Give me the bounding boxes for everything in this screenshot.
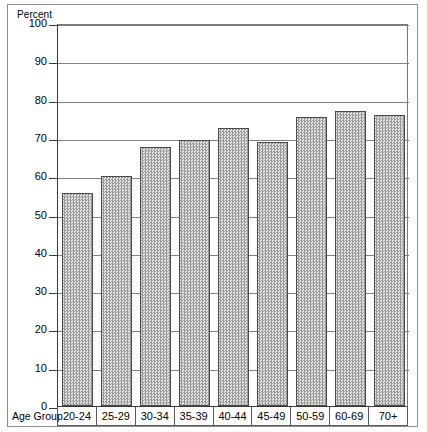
y-axis-tick-label: 60 xyxy=(13,171,47,182)
bar xyxy=(140,147,171,406)
bar-chart-figure: Percent 1009080706050403020100 20-2425-2… xyxy=(0,0,427,432)
y-axis-tick xyxy=(49,331,58,332)
plot-area xyxy=(57,24,408,407)
x-axis-category-label: 25-29 xyxy=(97,407,136,425)
gridline xyxy=(58,63,409,64)
bar xyxy=(62,193,93,406)
y-axis-tick xyxy=(49,140,58,141)
bar xyxy=(179,140,210,406)
x-axis-category-label: 20-24 xyxy=(58,407,97,425)
bar xyxy=(296,117,327,406)
y-axis-tick-label: 50 xyxy=(13,210,47,221)
bar xyxy=(218,128,249,406)
x-axis-category-label: 45-49 xyxy=(252,407,291,425)
bar xyxy=(335,111,366,406)
y-axis-tick-label: 20 xyxy=(13,324,47,335)
x-axis-category-label: 50-59 xyxy=(291,407,330,425)
x-axis-category-label: 70+ xyxy=(369,407,407,425)
x-axis-category-row: 20-2425-2930-3435-3940-4445-4950-5960-69… xyxy=(57,407,408,426)
y-axis-tick-label: 40 xyxy=(13,248,47,259)
y-axis-tick-label: 10 xyxy=(13,363,47,374)
y-axis-tick xyxy=(49,255,58,256)
y-axis-tick xyxy=(49,370,58,371)
y-axis-tick xyxy=(49,178,58,179)
x-axis-category-label: 40-44 xyxy=(214,407,253,425)
x-axis-category-label: 35-39 xyxy=(175,407,214,425)
y-axis-tick-label: 30 xyxy=(13,286,47,297)
y-axis-tick xyxy=(49,293,58,294)
y-axis-tick xyxy=(49,25,58,26)
x-axis-category-label: 60-69 xyxy=(330,407,369,425)
bar xyxy=(374,115,405,406)
y-axis-tick xyxy=(49,217,58,218)
y-axis-tick xyxy=(49,63,58,64)
bar xyxy=(257,142,288,406)
bar xyxy=(101,176,132,406)
gridline xyxy=(58,25,409,26)
y-axis-tick-label: 70 xyxy=(13,133,47,144)
y-axis-tick-labels: 1009080706050403020100 xyxy=(13,24,47,407)
x-axis-category-label: 30-34 xyxy=(136,407,175,425)
y-axis-tick-label: 100 xyxy=(13,18,47,29)
x-axis-title: Age Group xyxy=(12,410,63,422)
y-axis-tick xyxy=(49,102,58,103)
y-axis-tick-label: 80 xyxy=(13,95,47,106)
y-axis-tick-label: 90 xyxy=(13,56,47,67)
gridline xyxy=(58,102,409,103)
